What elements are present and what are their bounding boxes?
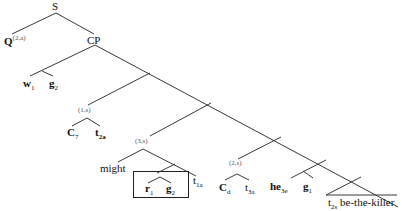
c7-node: C7 (67, 127, 78, 138)
g1-sub: 1 (309, 187, 313, 195)
w-node: w1 (23, 78, 34, 89)
cd-sub: d (227, 188, 231, 196)
g1-node: g1 (303, 181, 312, 192)
t2s-sub: 2s (331, 203, 337, 211)
w-sub: 1 (31, 84, 35, 92)
t2a-node: t2a (95, 127, 106, 138)
triangle-content: t2s be-the-killer (328, 197, 394, 208)
w-base: w (23, 77, 31, 89)
be-the-killer-label: be-the-killer (340, 196, 394, 208)
g2b-sub: 2 (172, 189, 176, 197)
t3a-sub: 3a (248, 188, 255, 196)
index-1s: (1,s) (78, 107, 91, 114)
q-node: Q(2,a) (4, 36, 26, 47)
t1a-sub: 1a (196, 181, 203, 189)
cd-base: C (219, 181, 227, 193)
might-node: might (100, 163, 126, 174)
t2a-sub: 2a (99, 133, 106, 141)
q-label: Q (4, 35, 13, 47)
index-3s: (3,s) (135, 138, 148, 145)
q-superscript: (2,a) (13, 34, 26, 42)
index-2s: (2,s) (229, 160, 242, 167)
he-sub: 3e (281, 187, 288, 195)
he-base: he (270, 180, 281, 192)
g2-node-top: g2 (49, 78, 58, 89)
c7-sub: 7 (75, 133, 79, 141)
he-node: he3e (270, 181, 288, 192)
c7-base: C (67, 126, 75, 138)
g2-node-boxed: g2 (166, 183, 175, 194)
t1a-node: t1a (193, 175, 203, 186)
t3a-node: t3a (245, 182, 255, 193)
r1-node: r1 (145, 183, 153, 194)
highlight-box (133, 171, 189, 198)
root-node-s: S (52, 1, 58, 12)
cp-label: CP (87, 34, 100, 46)
cd-node: Cd (219, 182, 230, 193)
r1-sub: 1 (150, 189, 154, 197)
root-label: S (52, 0, 58, 12)
g2a-sub: 2 (55, 84, 59, 92)
cp-node: CP (87, 35, 100, 46)
